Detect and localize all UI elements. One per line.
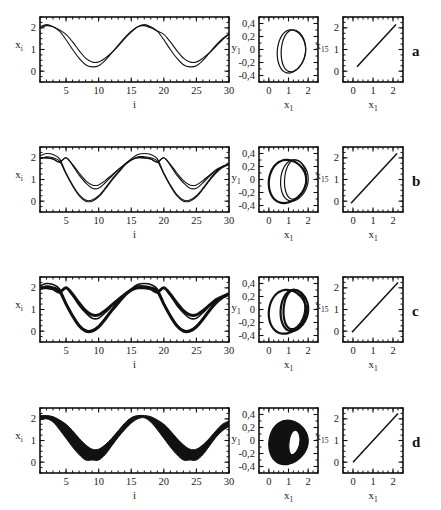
svg-text:0,2: 0,2 — [242, 291, 255, 302]
svg-text:0: 0 — [350, 345, 355, 356]
svg-text:0: 0 — [350, 85, 355, 96]
ts-xlabel: i — [133, 228, 136, 240]
sync-xlabel: x1 — [368, 98, 378, 113]
svg-text:0: 0 — [334, 66, 339, 77]
ts-xlabel: i — [133, 98, 136, 110]
svg-text:0: 0 — [250, 304, 255, 315]
svg-text:1: 1 — [334, 304, 339, 315]
svg-text:0: 0 — [266, 345, 271, 356]
svg-text:0: 0 — [334, 326, 339, 337]
svg-text:0,4: 0,4 — [242, 148, 256, 159]
svg-text:15: 15 — [126, 476, 137, 487]
svg-text:0: 0 — [350, 476, 355, 487]
pp-xlabel: x1 — [284, 358, 294, 373]
svg-text:-0,4: -0,4 — [238, 330, 255, 341]
svg-text:0,2: 0,2 — [242, 161, 255, 172]
ts-ylabel: xi — [15, 38, 23, 53]
sync-xlabel: x1 — [368, 489, 378, 504]
phase-portrait-loops — [269, 290, 308, 334]
ts-ylabel: xi — [15, 298, 23, 313]
svg-text:0,4: 0,4 — [242, 409, 256, 420]
svg-text:1: 1 — [370, 476, 375, 487]
phase-portrait-a-axes: 012-0,4-0,200,20,4 — [238, 17, 318, 96]
svg-text:30: 30 — [224, 215, 235, 226]
figure-row-b: 51015202530012ixi012-0,4-0,200,20,4x1y10… — [0, 147, 441, 277]
svg-text:0: 0 — [250, 44, 255, 55]
svg-text:2: 2 — [334, 152, 339, 163]
svg-text:2: 2 — [306, 215, 311, 226]
svg-text:1: 1 — [31, 174, 36, 185]
svg-text:20: 20 — [159, 215, 170, 226]
sync-diagonal-line — [351, 154, 397, 204]
svg-text:0: 0 — [266, 85, 271, 96]
svg-text:30: 30 — [224, 85, 235, 96]
svg-text:15: 15 — [126, 85, 137, 96]
svg-text:25: 25 — [191, 476, 202, 487]
svg-text:2: 2 — [390, 85, 395, 96]
svg-text:5: 5 — [63, 476, 68, 487]
svg-text:-0,4: -0,4 — [238, 70, 255, 81]
svg-text:1: 1 — [334, 174, 339, 185]
time-series-curves — [40, 25, 229, 67]
svg-text:0,2: 0,2 — [242, 422, 255, 433]
svg-text:0: 0 — [31, 326, 36, 337]
pp-xlabel: x1 — [284, 489, 294, 504]
pp-xlabel: x1 — [284, 228, 294, 243]
svg-text:0: 0 — [350, 215, 355, 226]
svg-text:2: 2 — [390, 215, 395, 226]
svg-text:15: 15 — [126, 345, 137, 356]
svg-text:0: 0 — [31, 196, 36, 207]
panel-letter-c: c — [412, 303, 419, 320]
svg-text:20: 20 — [159, 345, 170, 356]
svg-text:0,4: 0,4 — [242, 278, 256, 289]
phase-portrait-loops — [269, 160, 308, 203]
svg-text:10: 10 — [93, 476, 104, 487]
time-series-curves — [40, 415, 229, 460]
phase-portrait-loops — [277, 30, 305, 73]
svg-text:1: 1 — [370, 345, 375, 356]
svg-text:2: 2 — [390, 345, 395, 356]
svg-text:20: 20 — [159, 85, 170, 96]
svg-text:30: 30 — [224, 476, 235, 487]
svg-text:-0,4: -0,4 — [238, 200, 255, 211]
svg-text:1: 1 — [370, 85, 375, 96]
panel-letter-a: a — [412, 43, 420, 60]
svg-text:-0,4: -0,4 — [238, 461, 255, 472]
figure-row-a: 51015202530012ixi012-0,4-0,200,20,4x1y10… — [0, 17, 441, 147]
pp-ylabel: y1 — [231, 171, 241, 186]
svg-text:0: 0 — [31, 457, 36, 468]
svg-text:-0,2: -0,2 — [238, 187, 255, 198]
svg-text:2: 2 — [390, 476, 395, 487]
figure-row-d: 51015202530012ixi012-0,4-0,200,20,4x1y10… — [0, 408, 441, 510]
svg-text:5: 5 — [63, 345, 68, 356]
svg-text:-0,2: -0,2 — [238, 317, 255, 328]
svg-text:0: 0 — [31, 66, 36, 77]
ts-xlabel: i — [133, 358, 136, 370]
svg-text:2: 2 — [306, 476, 311, 487]
pp-ylabel: y1 — [231, 301, 241, 316]
svg-text:0: 0 — [266, 476, 271, 487]
pp-ylabel: y1 — [231, 41, 241, 56]
sync-diagonal-line — [353, 413, 398, 462]
svg-text:30: 30 — [224, 345, 235, 356]
svg-text:1: 1 — [286, 215, 291, 226]
svg-text:0: 0 — [266, 215, 271, 226]
svg-text:1: 1 — [334, 44, 339, 55]
svg-text:1: 1 — [286, 476, 291, 487]
svg-text:2: 2 — [31, 22, 36, 33]
sync-xlabel: x1 — [368, 228, 378, 243]
svg-text:0: 0 — [334, 196, 339, 207]
sync-diagonal-line — [352, 282, 398, 332]
svg-text:0: 0 — [250, 174, 255, 185]
time-series-a-axes: 51015202530012 — [31, 17, 235, 96]
svg-text:15: 15 — [126, 215, 137, 226]
svg-text:1: 1 — [334, 435, 339, 446]
time-series-curves — [40, 283, 229, 331]
svg-text:1: 1 — [286, 85, 291, 96]
svg-text:5: 5 — [63, 215, 68, 226]
pp-xlabel: x1 — [284, 98, 294, 113]
svg-text:5: 5 — [63, 85, 68, 96]
svg-text:25: 25 — [191, 215, 202, 226]
svg-text:2: 2 — [334, 282, 339, 293]
time-series-curves — [40, 153, 229, 201]
